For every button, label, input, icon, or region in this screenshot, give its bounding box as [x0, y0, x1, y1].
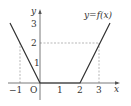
y-tick-3: 3: [31, 19, 37, 29]
guide-lines: [20, 43, 99, 83]
function-graph: y x y=f(x) 3 2 1 −1 O 1 2 3: [0, 0, 131, 106]
x-tick-3: 3: [96, 85, 102, 95]
x-tick-neg1: −1: [9, 85, 22, 95]
x-tick-1: 1: [57, 85, 63, 95]
y-tick-2: 2: [31, 38, 37, 48]
function-curve: [10, 23, 110, 83]
x-tick-2: 2: [77, 85, 83, 95]
x-axis-label: x: [114, 84, 119, 94]
y-axis-arrow-icon: [38, 9, 41, 14]
y-tick-1: 1: [34, 58, 40, 68]
function-label: y=f(x): [83, 10, 113, 20]
y-axis-label: y: [30, 6, 37, 16]
origin-label: O: [30, 85, 37, 95]
